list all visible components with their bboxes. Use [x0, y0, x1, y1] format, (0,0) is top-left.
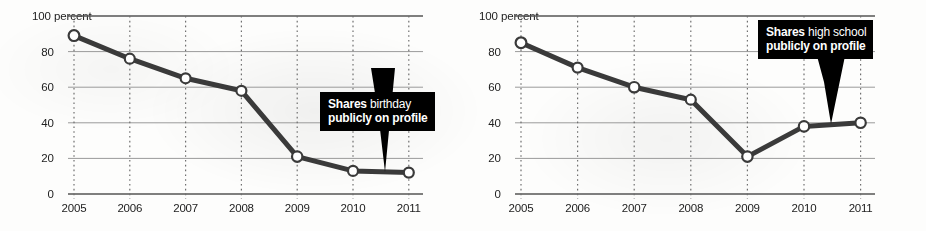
data-point-2005-right — [516, 37, 527, 48]
x-tick-2011-left: 2011 — [397, 202, 421, 214]
data-point-2005 — [69, 30, 80, 41]
x-tick-2006-left: 2006 — [117, 202, 142, 214]
y-tick-20-right: 20 — [463, 152, 501, 164]
callout-line-2-right: publicly on profile — [766, 39, 866, 53]
callout-shares-high-school: Shares high school publicly on profile — [758, 20, 873, 59]
y-tick-20-left: 20 — [0, 152, 54, 164]
data-point-2007-right — [629, 82, 639, 92]
x-tick-2007-right: 2007 — [622, 202, 647, 214]
x-tick-2008-right: 2008 — [678, 202, 703, 214]
x-tick-2011-right: 2011 — [849, 202, 873, 214]
y-tick-0-left: 0 — [0, 188, 54, 200]
data-point-2007 — [181, 73, 191, 83]
chart-panel-shares-birthday: 100 percent — [0, 0, 463, 231]
callout-line-2-left: publicly on profile — [328, 111, 428, 125]
y-tick-60-left: 60 — [0, 81, 54, 93]
x-tick-2007-left: 2007 — [173, 202, 198, 214]
data-point-2008-right — [686, 95, 696, 105]
data-point-2008 — [236, 86, 246, 96]
callout-line-1: Shares birthday — [328, 97, 428, 111]
callout-line-1-right: Shares high school — [766, 25, 866, 39]
callout-shares-birthday: Shares birthday publicly on profile — [320, 92, 435, 131]
x-tick-2005-right: 2005 — [509, 202, 534, 214]
x-tick-2006-right: 2006 — [565, 202, 590, 214]
y-tick-40-right: 40 — [463, 117, 501, 129]
chart-panel-shares-high-school: 100 percent — [463, 0, 926, 231]
x-tick-2009-right: 2009 — [735, 202, 760, 214]
chart-sheet: 100 percent — [0, 0, 926, 231]
x-tick-2009-left: 2009 — [285, 202, 310, 214]
y-tick-60-right: 60 — [463, 81, 501, 93]
data-point-2009-right — [742, 151, 752, 161]
callout-normal-text-right: high school — [805, 25, 867, 39]
y-tick-80-left: 80 — [0, 46, 54, 58]
x-tick-2008-left: 2008 — [229, 202, 254, 214]
data-point-2010 — [348, 166, 358, 176]
y-tick-0-right: 0 — [463, 188, 501, 200]
y-tick-80-right: 80 — [463, 46, 501, 58]
data-point-2011 — [404, 168, 414, 178]
data-point-2009 — [292, 151, 302, 161]
x-tick-2010-right: 2010 — [792, 202, 817, 214]
callout-bold-text-left: Shares — [328, 97, 367, 111]
data-point-2011-right — [855, 118, 865, 128]
x-tick-2010-left: 2010 — [341, 202, 366, 214]
data-point-2006-right — [573, 63, 583, 73]
callout-normal-text-left: birthday — [367, 97, 411, 111]
callout-bold-text-right: Shares — [766, 25, 805, 39]
data-point-2006 — [125, 54, 135, 64]
x-tick-2005-left: 2005 — [62, 202, 87, 214]
y-tick-40-left: 40 — [0, 117, 54, 129]
data-point-2010-right — [799, 121, 809, 131]
callout-pointer-right — [811, 56, 851, 126]
